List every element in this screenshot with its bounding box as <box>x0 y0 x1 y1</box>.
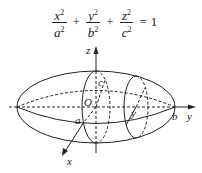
y-arrowhead <box>188 105 196 110</box>
b-label: b <box>172 110 178 122</box>
z-axis-label: z <box>85 44 91 56</box>
z-arrowhead <box>94 46 99 54</box>
ellipsoid-diagram: z y x O a b c y <box>0 0 202 173</box>
section-y-label: y <box>130 107 136 119</box>
x-axis-label: x <box>66 155 72 167</box>
c-label: c <box>98 76 103 88</box>
x-axis-outer <box>64 122 84 153</box>
a-label: a <box>75 114 81 126</box>
origin-label: O <box>84 96 92 108</box>
radius-section <box>136 88 145 107</box>
x-axis-inner <box>84 107 96 122</box>
y-axis-label: y <box>186 110 192 122</box>
